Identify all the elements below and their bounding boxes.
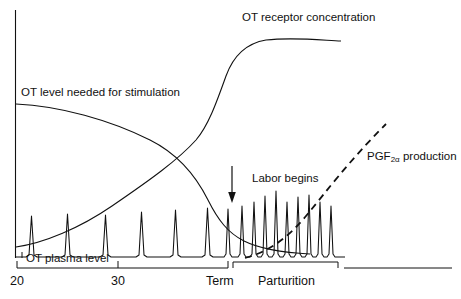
x-tick-label-30: 30 xyxy=(111,274,125,288)
label-ot-plasma-level: OT plasma level xyxy=(26,252,109,265)
x-tick-label-parturition: Parturition xyxy=(258,274,315,288)
label-labor-begins: Labor begins xyxy=(252,172,319,185)
label-ot-receptor-concentration: OT receptor concentration xyxy=(242,11,375,24)
x-tick-label-20: 20 xyxy=(10,274,24,288)
labor-arrow-head xyxy=(228,192,236,203)
pgf-suffix: production xyxy=(400,150,457,162)
pgf-subscript: 2α xyxy=(391,155,400,164)
curve-ot-receptor xyxy=(16,39,341,247)
label-pgf2a-production: PGF2α production xyxy=(367,150,457,163)
label-ot-level-needed: OT level needed for stimulation xyxy=(21,86,180,99)
curve-ot-plasma-spikes xyxy=(16,191,345,257)
x-tick-label-term: Term xyxy=(206,274,234,288)
pgf-prefix: PGF xyxy=(367,150,391,162)
chart-figure: OT receptor concentration OT level neede… xyxy=(0,0,461,299)
x-axis-parturition-bracket xyxy=(233,262,338,268)
